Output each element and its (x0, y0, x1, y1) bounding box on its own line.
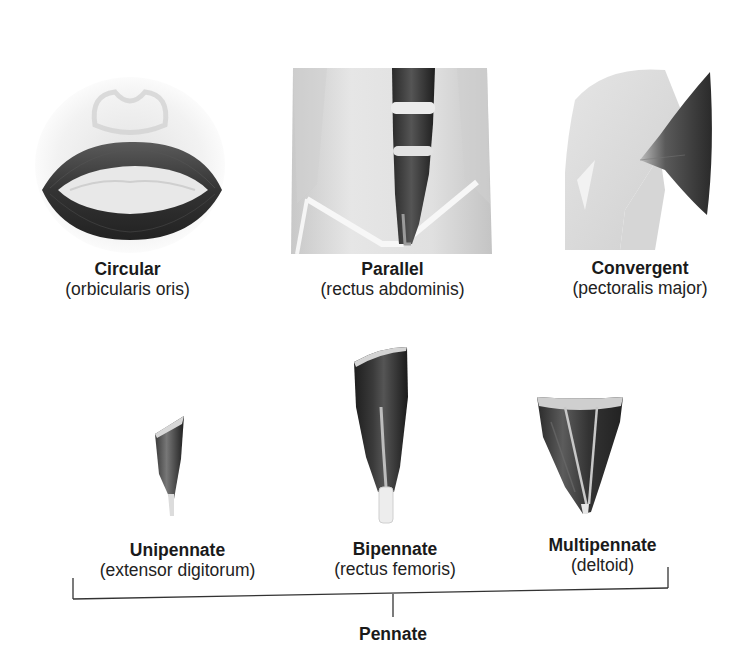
bracket-horizontal-line (73, 588, 668, 599)
pennate-bracket (0, 0, 740, 658)
pennate-group-label: Pennate (333, 624, 453, 645)
